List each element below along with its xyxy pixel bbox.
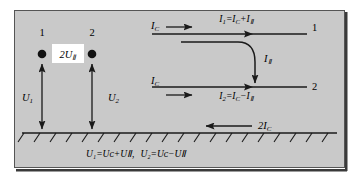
circuit-diagram-figure: 2IC 1 2 2UⅡ U1 U2 IC I1=IC+IⅡ 1 IⅡ IC 2 …: [0, 0, 359, 183]
terminal-2-number: 2: [89, 27, 94, 38]
panel-shadow-right: [345, 12, 348, 171]
top-branch-terminal-number: 1: [312, 22, 317, 33]
terminal-1-number: 1: [39, 27, 44, 38]
bottom-branch-terminal-number: 2: [312, 81, 317, 92]
terminal-1-dot: [38, 50, 47, 59]
terminal-2-dot: [88, 50, 97, 59]
panel-shadow-bottom: [16, 169, 347, 172]
